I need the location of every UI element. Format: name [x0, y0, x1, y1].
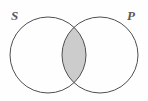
- venn-diagram: S P: [0, 0, 148, 101]
- set-label-p: P: [127, 9, 135, 22]
- venn-diagram-canvas: [0, 0, 148, 101]
- set-label-s: S: [11, 9, 18, 22]
